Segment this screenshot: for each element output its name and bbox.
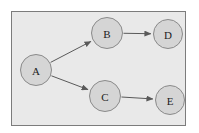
node-b[interactable]: B xyxy=(92,18,123,49)
node-d-label: D xyxy=(164,29,172,41)
node-e[interactable]: E xyxy=(156,86,185,115)
node-b-label: B xyxy=(103,28,110,40)
node-d[interactable]: D xyxy=(154,20,183,49)
node-a[interactable]: A xyxy=(21,55,52,86)
node-c-label: C xyxy=(101,91,108,103)
directed-graph-canvas: A B C D E xyxy=(0,0,199,133)
node-e-label: E xyxy=(167,95,174,107)
diagram-container: A B C D E xyxy=(0,0,199,133)
node-c[interactable]: C xyxy=(90,81,121,112)
node-a-label: A xyxy=(32,65,40,77)
